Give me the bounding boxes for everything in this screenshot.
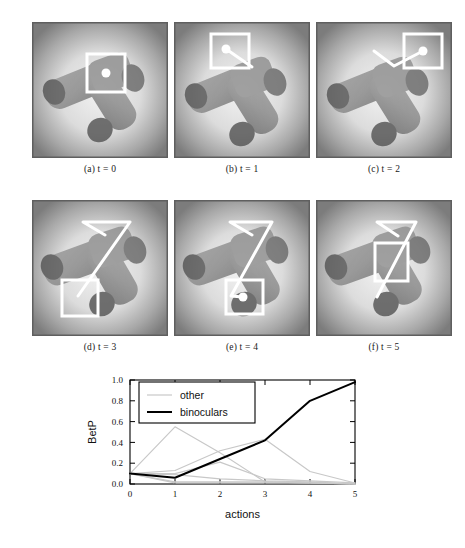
binoculars-image-c [316,22,452,158]
panel-caption-a: (a) t = 0 [32,164,168,174]
panel-e-svg [174,200,310,336]
figure-panel-d: (d) t = 3 [32,200,168,352]
panel-b-svg [174,22,310,158]
y-tick-label: 0.0 [112,479,124,489]
panel-caption-f: (f) t = 5 [316,342,452,352]
binoculars-image-d [32,200,168,336]
panel-d-svg [32,200,168,336]
figure-panel-b: (b) t = 1 [174,22,310,174]
panel-f-svg [316,200,452,336]
panel-c-svg [316,22,452,158]
betp-line-chart: 0.00.20.40.60.81.0012345actionsBetPother… [0,368,465,548]
x-axis-title: actions [225,508,260,520]
binoculars-image-f [316,200,452,336]
y-tick-label: 0.2 [112,458,123,468]
binoculars-image-a [32,22,168,158]
chart-svg: 0.00.20.40.60.81.0012345actionsBetPother… [0,368,465,548]
x-tick-label: 1 [173,489,178,499]
panel-caption-c: (c) t = 2 [316,164,452,174]
panel-caption-d: (d) t = 3 [32,342,168,352]
binoculars-image-b [174,22,310,158]
x-tick-label: 0 [128,489,133,499]
figure-panel-a: (a) t = 0 [32,22,168,174]
legend-label-binoculars: binoculars [180,406,228,418]
series-line-other [130,427,355,484]
x-tick-label: 5 [353,489,358,499]
binoculars-image-e [174,200,310,336]
y-tick-label: 0.6 [112,417,124,427]
figure-panel-f: (f) t = 5 [316,200,452,352]
panel-caption-e: (e) t = 4 [174,342,310,352]
panel-caption-b: (b) t = 1 [174,164,310,174]
figure-panel-e: (e) t = 4 [174,200,310,352]
y-tick-label: 1.0 [112,375,124,385]
x-tick-label: 3 [263,489,268,499]
panel-a-svg [32,22,168,158]
figure-panel-c: (c) t = 2 [316,22,452,174]
x-tick-label: 2 [218,489,223,499]
y-tick-label: 0.4 [112,438,124,448]
figure-panel-grid: (a) t = 0 [0,0,465,368]
y-tick-label: 0.8 [112,396,124,406]
y-axis-title: BetP [86,420,98,444]
legend-label-other: other [180,389,204,401]
x-tick-label: 4 [308,489,313,499]
